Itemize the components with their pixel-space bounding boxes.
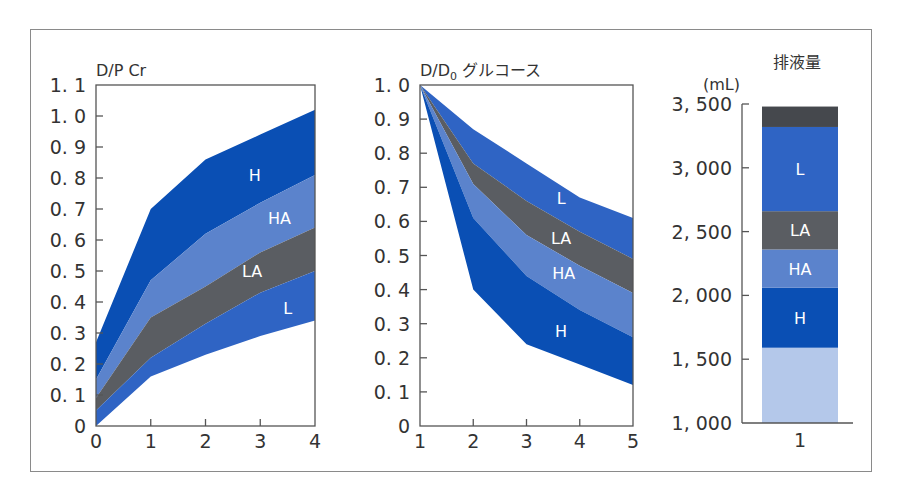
y-tick-label: 0. 3 <box>374 313 410 335</box>
x-tick-label: 5 <box>627 430 639 452</box>
segment-label: LA <box>790 221 810 240</box>
y-tick-label: 0. 6 <box>50 229 86 251</box>
x-tick-label: 3 <box>254 430 266 452</box>
chart-drainage-volume: 排液量 (mL) HHALAL 1, 0001, 5002, 0002, 500… <box>672 53 853 451</box>
segment-label: H <box>794 309 806 328</box>
y-tick-label: 0. 3 <box>50 322 86 344</box>
segment-label: L <box>796 160 805 179</box>
y-tick-label: 0 <box>398 415 410 437</box>
y-tick-label: 0. 5 <box>50 260 86 282</box>
x-tick-label: 3 <box>520 430 532 452</box>
band-label: HA <box>552 264 575 283</box>
y-tick-label: 0. 7 <box>50 198 86 220</box>
y-tick-label: 0. 9 <box>50 136 86 158</box>
y-tick-label: 0. 1 <box>50 384 86 406</box>
y-tick-label: 0. 8 <box>50 167 86 189</box>
x-tick-label: 4 <box>574 430 586 452</box>
x-tick-label: 1 <box>145 430 157 452</box>
y-tick-label: 1. 1 <box>50 74 86 96</box>
chart-title: D/P Cr <box>96 61 147 80</box>
y-tick-label: 3, 000 <box>672 157 732 179</box>
band-label: LA <box>551 229 571 248</box>
x-tick-label: 1 <box>414 430 426 452</box>
y-tick-label: 0. 4 <box>50 291 86 313</box>
y-tick-label: 0. 4 <box>374 279 410 301</box>
segment-label: HA <box>789 260 812 279</box>
y-tick-label: 0. 9 <box>374 108 410 130</box>
y-tick-label: 2, 000 <box>672 284 732 306</box>
y-tick-label: 0. 2 <box>50 353 86 375</box>
x-tick-label: 2 <box>467 430 479 452</box>
chart-title: 排液量 <box>773 53 821 72</box>
y-tick-label: 1, 500 <box>672 348 732 370</box>
band-label: LA <box>242 262 262 281</box>
x-tick-label: 1 <box>794 429 806 451</box>
y-tick-label: 1. 0 <box>374 74 410 96</box>
band-label: L <box>283 299 292 318</box>
chart-dp-cr: D/P Cr HHALAL 00. 10. 20. 30. 40. 50. 60… <box>50 61 321 452</box>
y-tick-label: 0. 1 <box>374 381 410 403</box>
y-tick-label: 1, 000 <box>672 412 732 434</box>
y-tick-label: 0 <box>74 415 86 437</box>
unit-label: (mL) <box>703 75 740 94</box>
y-tick-label: 0. 7 <box>374 176 410 198</box>
band-label: H <box>555 322 567 341</box>
x-tick-label: 0 <box>90 430 102 452</box>
chart-dd0-glucose: D/D0 グルコース LLAHAH 00. 10. 20. 30. 40. 50… <box>374 61 639 452</box>
y-tick-label: 0. 8 <box>374 142 410 164</box>
y-tick-label: 0. 2 <box>374 347 410 369</box>
bar-segment <box>762 107 838 127</box>
chart-canvas: D/P Cr HHALAL 00. 10. 20. 30. 40. 50. 60… <box>0 0 899 497</box>
chart-title: D/D0 グルコース <box>420 61 541 83</box>
y-tick-label: 2, 500 <box>672 221 732 243</box>
bar-segment <box>762 348 838 423</box>
x-tick-label: 2 <box>199 430 211 452</box>
area-bands: LLAHAH <box>420 85 633 385</box>
band-label: HA <box>268 209 291 228</box>
band-label: H <box>249 166 261 185</box>
y-tick-label: 0. 5 <box>374 245 410 267</box>
y-tick-label: 0. 6 <box>374 210 410 232</box>
area-bands: HHALAL <box>96 110 315 426</box>
band-label: L <box>557 189 566 208</box>
y-tick-label: 3, 500 <box>672 93 732 115</box>
x-tick-label: 4 <box>309 430 321 452</box>
stacked-bar: HHALAL <box>762 107 838 423</box>
y-tick-label: 1. 0 <box>50 105 86 127</box>
